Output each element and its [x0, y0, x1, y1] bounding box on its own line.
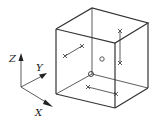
- y-arrow-icon: [39, 73, 47, 79]
- z-axis-label: Z: [9, 54, 16, 64]
- marker-pair-bottom: [86, 85, 118, 96]
- marker-pair-left: [63, 44, 84, 58]
- cube-edge-bottom-back: [92, 74, 148, 88]
- cube-edge-bottom-right: [115, 88, 148, 108]
- x-arrow-icon: [43, 100, 53, 108]
- cube-edge-bottom-back-left: [56, 74, 92, 94]
- cube-top-face: [56, 8, 148, 43]
- marker-pair-right: [118, 29, 122, 65]
- y-axis-label: Y: [36, 63, 43, 73]
- z-arrow-icon: [19, 53, 24, 61]
- x-axis-label: X: [35, 108, 42, 118]
- circle-marker-right: [100, 57, 104, 61]
- cube-diagram: [0, 0, 153, 123]
- axis-triad: [21, 58, 49, 104]
- cube-edge-bottom-front: [56, 94, 115, 108]
